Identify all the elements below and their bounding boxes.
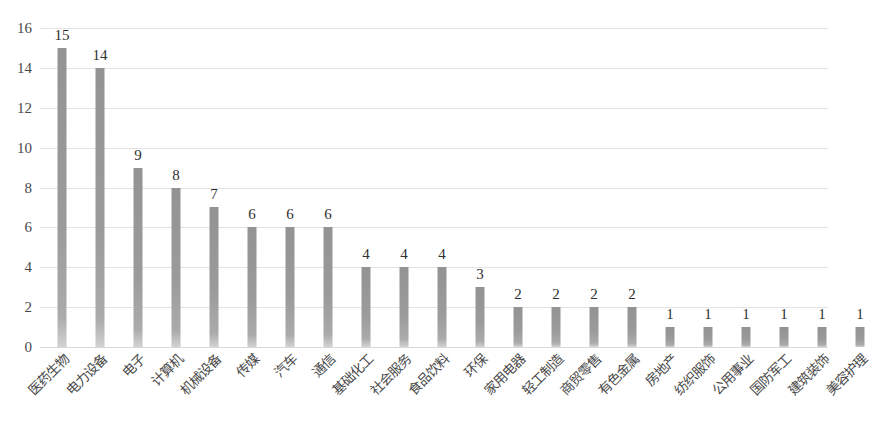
bar[interactable] xyxy=(780,327,789,347)
x-axis-category-label: 医药生物 xyxy=(25,351,72,398)
bar-value-label: 4 xyxy=(362,247,370,262)
x-axis-category-label: 通信 xyxy=(310,351,338,379)
y-axis-tick-label: 16 xyxy=(17,21,32,36)
bar-value-label: 7 xyxy=(210,187,218,202)
bar[interactable] xyxy=(96,68,105,347)
bar[interactable] xyxy=(552,307,561,347)
y-axis-tick-label: 12 xyxy=(17,100,32,115)
bar-value-label: 8 xyxy=(172,168,180,183)
y-axis-tick-label: 0 xyxy=(25,340,33,355)
bar-value-label: 1 xyxy=(666,307,674,322)
y-axis-tick-label: 6 xyxy=(25,220,33,235)
bar-slot: 3 xyxy=(461,28,499,347)
bar-value-label: 9 xyxy=(134,148,142,163)
bar-value-label: 14 xyxy=(93,48,108,63)
bar-slot: 1 xyxy=(689,28,727,347)
bar[interactable] xyxy=(210,207,219,347)
bar-slot: 14 xyxy=(81,28,119,347)
bar[interactable] xyxy=(704,327,713,347)
bar[interactable] xyxy=(248,227,257,347)
bar-slot: 9 xyxy=(119,28,157,347)
bar[interactable] xyxy=(58,48,67,347)
bar[interactable] xyxy=(742,327,751,347)
bar-slot: 2 xyxy=(499,28,537,347)
x-axis-category-label: 环保 xyxy=(462,351,490,379)
bar-slot: 4 xyxy=(347,28,385,347)
category-slot: 电力设备 xyxy=(81,349,119,426)
bar-value-label: 2 xyxy=(552,287,560,302)
bar[interactable] xyxy=(514,307,523,347)
bar-value-label: 1 xyxy=(704,307,712,322)
bar[interactable] xyxy=(818,327,827,347)
bar-slot: 15 xyxy=(43,28,81,347)
bar-value-label: 15 xyxy=(55,28,70,43)
bar[interactable] xyxy=(856,327,865,347)
bar[interactable] xyxy=(628,307,637,347)
y-axis-tick-label: 8 xyxy=(25,180,33,195)
bar[interactable] xyxy=(286,227,295,347)
bar-slot: 6 xyxy=(271,28,309,347)
bar-slot: 1 xyxy=(803,28,841,347)
x-axis-category-label: 汽车 xyxy=(272,351,300,379)
bar-value-label: 1 xyxy=(856,307,864,322)
bar-slot: 2 xyxy=(537,28,575,347)
bar-value-label: 1 xyxy=(742,307,750,322)
bar-slot: 7 xyxy=(195,28,233,347)
category-slot: 美容护理 xyxy=(841,349,874,426)
category-slot: 电子 xyxy=(119,349,157,426)
bar-value-label: 4 xyxy=(400,247,408,262)
y-axis-tick-label: 14 xyxy=(17,60,32,75)
bar-value-label: 4 xyxy=(438,247,446,262)
bar-slot: 6 xyxy=(309,28,347,347)
bar-value-label: 1 xyxy=(780,307,788,322)
bar[interactable] xyxy=(400,267,409,347)
bar[interactable] xyxy=(666,327,675,347)
bar-slot: 6 xyxy=(233,28,271,347)
bar-slot: 2 xyxy=(613,28,651,347)
x-axis-category-label: 电子 xyxy=(120,351,148,379)
category-slot: 传媒 xyxy=(233,349,271,426)
category-slot: 汽车 xyxy=(271,349,309,426)
bar-slot: 4 xyxy=(385,28,423,347)
bars-layer: 151498766644432222111111 xyxy=(40,28,828,347)
bar-value-label: 2 xyxy=(590,287,598,302)
bar-slot: 1 xyxy=(651,28,689,347)
bar[interactable] xyxy=(438,267,447,347)
plot-area: 0246810121416 151498766644432222111111 xyxy=(40,28,828,347)
y-axis-tick-label: 10 xyxy=(17,140,32,155)
bar[interactable] xyxy=(476,287,485,347)
category-slot: 食品饮料 xyxy=(423,349,461,426)
bar-slot: 2 xyxy=(575,28,613,347)
y-axis-tick-label: 4 xyxy=(25,260,33,275)
bar[interactable] xyxy=(172,188,181,348)
bar-value-label: 6 xyxy=(248,207,256,222)
bar-slot: 1 xyxy=(841,28,874,347)
bar[interactable] xyxy=(134,168,143,347)
bar-slot: 4 xyxy=(423,28,461,347)
bar[interactable] xyxy=(324,227,333,347)
bar-value-label: 3 xyxy=(476,267,484,282)
y-axis-tick-label: 2 xyxy=(25,300,33,315)
bar-slot: 1 xyxy=(765,28,803,347)
category-slot: 机械设备 xyxy=(195,349,233,426)
bar[interactable] xyxy=(590,307,599,347)
bar-value-label: 2 xyxy=(514,287,522,302)
bar-slot: 1 xyxy=(727,28,765,347)
bar-value-label: 1 xyxy=(818,307,826,322)
bar-value-label: 2 xyxy=(628,287,636,302)
category-slot: 有色金属 xyxy=(613,349,651,426)
x-axis-category-labels: 医药生物电力设备电子计算机机械设备传媒汽车通信基础化工社会服务食品饮料环保家用电… xyxy=(40,349,828,426)
bar[interactable] xyxy=(362,267,371,347)
bar-slot: 8 xyxy=(157,28,195,347)
bar-value-label: 6 xyxy=(324,207,332,222)
bar-value-label: 6 xyxy=(286,207,294,222)
gridline xyxy=(40,347,828,348)
x-axis-category-label: 传媒 xyxy=(234,351,262,379)
